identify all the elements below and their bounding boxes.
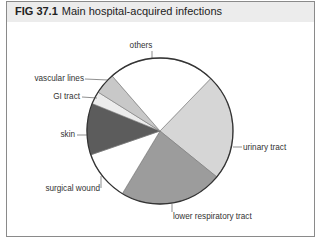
slice-label-surgical-wound: surgical wound [45, 184, 100, 193]
leader-line [85, 79, 108, 80]
slice-label-gi-tract: GI tract [53, 92, 81, 101]
slice-label-skin: skin [60, 130, 75, 139]
slice-label-vascular-lines: vascular lines [34, 74, 84, 83]
slice-label-urinary-tract: urinary tract [243, 143, 287, 152]
slice-label-lower-respiratory-tract: lower respiratory tract [173, 212, 252, 221]
slice-label-others: others [130, 41, 153, 50]
pie-chart: othersvascular linesGI tractskinsurgical… [0, 0, 317, 241]
